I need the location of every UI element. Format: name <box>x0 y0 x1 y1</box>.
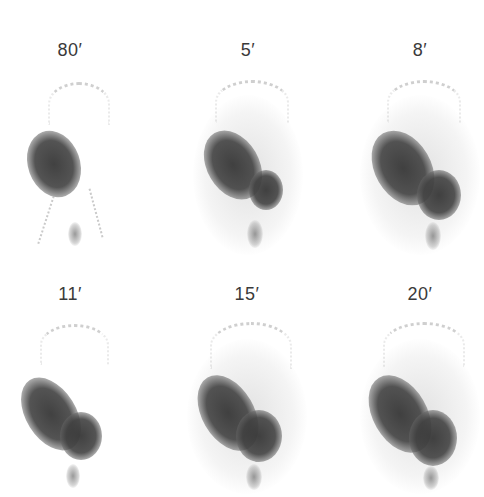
uptake-region-secondary <box>417 170 461 220</box>
panel-label: 15′ <box>172 284 322 305</box>
panel-label: 5′ <box>173 40 323 61</box>
scan-panel-11: 11′ <box>0 284 150 497</box>
scan-panel-80: 80′ <box>0 40 150 270</box>
uptake-region-secondary <box>236 410 282 462</box>
activity-trail <box>89 189 104 238</box>
uptake-region-primary <box>18 123 90 205</box>
head-outline <box>215 80 289 123</box>
scan-panel-5: 5′ <box>173 40 323 270</box>
uptake-region-lower <box>66 464 80 488</box>
head-outline <box>387 80 461 123</box>
head-outline <box>40 324 109 365</box>
uptake-region-lower <box>247 220 263 248</box>
uptake-region-secondary <box>249 170 283 210</box>
uptake-region-secondary <box>60 412 102 460</box>
panel-label: 11′ <box>0 284 145 305</box>
scintigraphy-image <box>173 70 323 250</box>
head-outline <box>48 82 110 125</box>
uptake-region-lower <box>68 222 82 246</box>
activity-trail <box>37 196 54 244</box>
uptake-region-secondary <box>409 410 457 466</box>
uptake-region-lower <box>423 466 439 490</box>
head-outline <box>210 322 292 369</box>
scintigraphy-image <box>345 70 484 250</box>
scan-panel-20: 20′ <box>345 284 484 497</box>
scan-panel-15: 15′ <box>172 284 322 497</box>
scintigraphy-image <box>0 314 150 494</box>
scintigraphy-image <box>345 314 484 494</box>
panel-label: 80′ <box>0 40 145 61</box>
uptake-region-lower <box>246 464 262 490</box>
scintigraphy-image <box>0 70 150 250</box>
uptake-region-lower <box>425 222 441 250</box>
scintigraphy-image <box>172 314 322 494</box>
panel-label: 8′ <box>345 40 484 61</box>
scan-panel-8: 8′ <box>345 40 484 270</box>
head-outline <box>383 322 465 367</box>
panel-label: 20′ <box>345 284 484 305</box>
